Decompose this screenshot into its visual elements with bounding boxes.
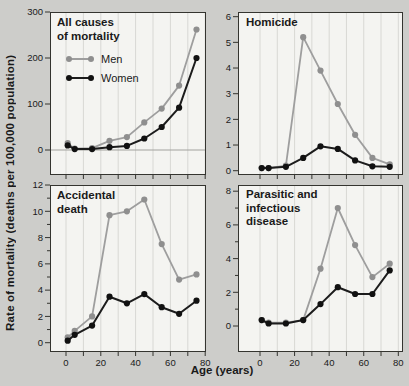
panel-title-accidental-death: Accidental death xyxy=(57,189,115,216)
svg-text:4: 4 xyxy=(226,62,231,73)
svg-text:2: 2 xyxy=(226,287,231,298)
svg-text:300: 300 xyxy=(27,6,43,17)
svg-text:12: 12 xyxy=(32,179,43,190)
svg-text:6: 6 xyxy=(226,219,231,230)
svg-text:4: 4 xyxy=(226,253,231,264)
svg-text:8: 8 xyxy=(38,232,43,243)
panel-title-parasitic-infectious: Parasitic and infectious disease xyxy=(246,188,318,229)
panel-title-homicide: Homicide xyxy=(246,16,298,30)
svg-text:3: 3 xyxy=(226,88,231,99)
panel-title-all-causes: All causes of mortality xyxy=(57,16,120,43)
svg-text:200: 200 xyxy=(27,52,43,63)
svg-text:8: 8 xyxy=(226,185,231,196)
svg-text:20: 20 xyxy=(289,357,300,368)
legend-label-women: Women xyxy=(101,72,139,84)
svg-text:0: 0 xyxy=(38,337,43,348)
y-axis-label: Rate of mortality (deaths per 100,000 po… xyxy=(1,0,18,386)
svg-text:1: 1 xyxy=(226,139,231,150)
svg-text:0: 0 xyxy=(226,320,231,331)
svg-text:100: 100 xyxy=(27,98,43,109)
svg-text:6: 6 xyxy=(38,258,43,269)
svg-text:2: 2 xyxy=(38,311,43,322)
mortality-figure: 0100200300012345602040608002468101202040… xyxy=(0,0,409,386)
svg-text:40: 40 xyxy=(130,357,141,368)
svg-text:4: 4 xyxy=(38,284,43,295)
svg-text:0: 0 xyxy=(226,165,231,176)
svg-text:0: 0 xyxy=(63,357,68,368)
svg-text:6: 6 xyxy=(226,11,231,22)
legend-item-men: Men xyxy=(66,49,139,68)
x-axis-label: Age (years) xyxy=(160,364,284,376)
legend: Men Women xyxy=(66,49,139,87)
svg-text:10: 10 xyxy=(32,206,43,217)
women-line-marker-icon xyxy=(66,74,94,82)
legend-label-men: Men xyxy=(101,53,122,65)
svg-text:0: 0 xyxy=(38,144,43,155)
svg-text:60: 60 xyxy=(358,357,369,368)
svg-text:80: 80 xyxy=(393,357,404,368)
svg-text:40: 40 xyxy=(324,357,335,368)
svg-text:20: 20 xyxy=(96,357,107,368)
svg-text:2: 2 xyxy=(226,114,231,125)
legend-item-women: Women xyxy=(66,68,139,87)
men-line-marker-icon xyxy=(66,55,94,63)
svg-text:5: 5 xyxy=(226,37,231,48)
